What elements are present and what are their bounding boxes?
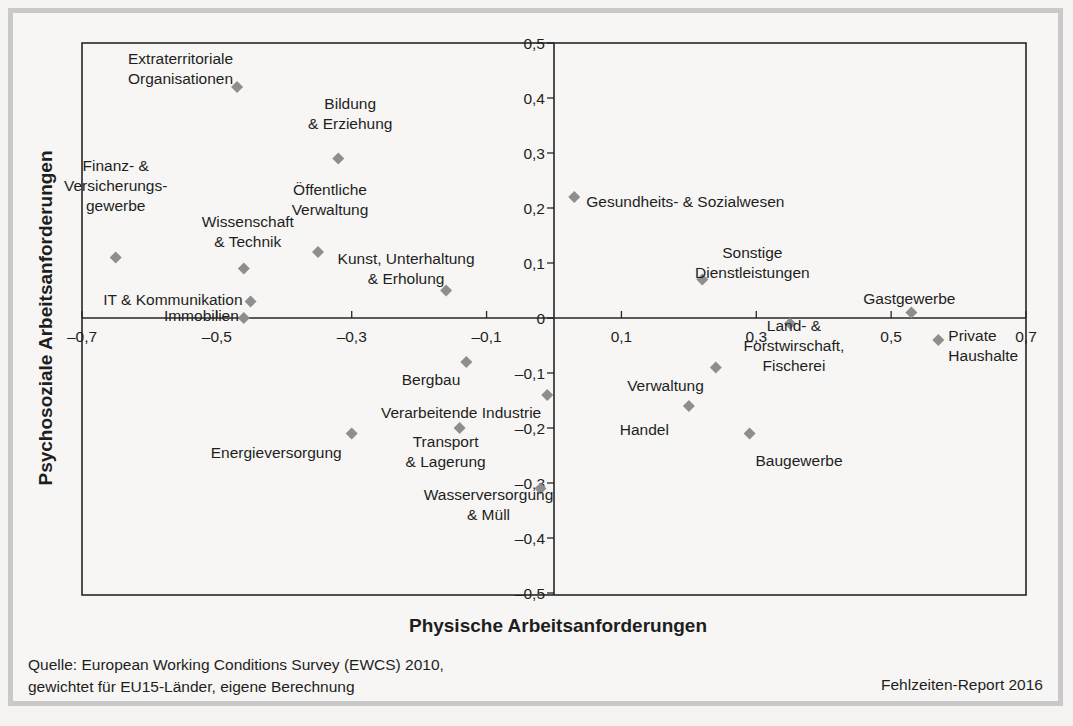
x-tick-label: –0,3 (337, 328, 367, 345)
source-line-2: gewichtet für EU15-Länder, eigene Berech… (28, 676, 444, 698)
data-point (110, 252, 122, 264)
data-point-label: Energieversorgung (211, 444, 342, 461)
data-point-label: PrivateHaushalte (948, 327, 1018, 364)
data-point-label: SonstigeDienstleistungen (695, 244, 810, 281)
data-point (460, 356, 472, 368)
data-point-label: ExtraterritorialeOrganisationen (128, 50, 233, 87)
data-point-label: Bildung& Erziehung (308, 95, 392, 132)
data-point-label-line: & Technik (214, 233, 281, 250)
data-point-label: Immobilien (164, 307, 239, 324)
data-point-label: Handel (620, 421, 669, 438)
data-point-label-line: Gastgewerbe (863, 290, 955, 307)
x-tick-label: 0,7 (1015, 328, 1037, 345)
data-point-label: Gastgewerbe (863, 290, 955, 307)
y-tick-label: 0 (536, 310, 545, 327)
data-point-label: Baugewerbe (756, 452, 843, 469)
scatter-chart: –0,7–0,5–0,3–0,10,10,30,50,70,50,40,30,2… (0, 0, 1073, 726)
y-tick-label: –0,4 (515, 530, 546, 547)
data-point-label-line: & Müll (467, 506, 510, 523)
data-point-label-line: Forstwirschaft, (744, 337, 845, 354)
data-point-label-line: Handel (620, 421, 669, 438)
data-point-label-line: gewerbe (86, 197, 145, 214)
data-point (238, 312, 250, 324)
x-tick-label: –0,5 (202, 328, 232, 345)
data-point-label: Finanz- &Versicherungs-gewerbe (64, 157, 167, 214)
y-axis-title: Psychosoziale Arbeitsanforderungen (35, 150, 56, 485)
data-point (568, 191, 580, 203)
data-point-label-line: Kunst, Unterhaltung (338, 250, 475, 267)
y-tick-label: –0,5 (515, 585, 545, 602)
data-point-label-line: Energieversorgung (211, 444, 342, 461)
y-tick-label: 0,5 (523, 35, 545, 52)
source-line-1: Quelle: European Working Conditions Surv… (28, 654, 444, 676)
data-point-label-line: Land- & (767, 317, 822, 334)
data-point-label: IT & Kommunikation (103, 291, 242, 308)
data-point-label: ÖffentlicheVerwaltung (292, 181, 369, 218)
data-point-label: Transport& Lagerung (406, 433, 486, 470)
data-point (744, 428, 756, 440)
data-point-label-line: & Lagerung (406, 453, 486, 470)
data-point (932, 334, 944, 346)
data-point-label-line: IT & Kommunikation (103, 291, 242, 308)
data-point (346, 428, 358, 440)
data-point-label-line: Baugewerbe (756, 452, 843, 469)
data-point (905, 307, 917, 319)
y-tick-label: 0,4 (523, 90, 545, 107)
data-point-label-line: Bildung (324, 95, 376, 112)
report-credit: Fehlzeiten-Report 2016 (881, 676, 1043, 694)
data-point-label-line: Fischerei (763, 357, 826, 374)
x-tick-label: –0,7 (67, 328, 97, 345)
data-point-label-line: Organisationen (128, 70, 233, 87)
data-point-label: Wasserversorgung& Müll (424, 486, 554, 523)
data-point-label-line: & Erholung (368, 270, 445, 287)
data-point (683, 400, 695, 412)
data-point-label-line: Sonstige (722, 244, 782, 261)
data-point (238, 263, 250, 275)
data-point-label-line: Immobilien (164, 307, 239, 324)
data-point-label-line: Verwaltung (627, 377, 704, 394)
data-point-label: Gesundheits- & Sozialwesen (586, 193, 784, 210)
x-tick-label: 0,5 (880, 328, 902, 345)
source-note: Quelle: European Working Conditions Surv… (28, 654, 444, 698)
x-tick-label: 0,1 (611, 328, 633, 345)
data-point-label-line: Bergbau (402, 371, 461, 388)
data-point-label-line: & Erziehung (308, 115, 392, 132)
data-point-label: Bergbau (402, 371, 461, 388)
data-point-label-line: Private (948, 327, 996, 344)
y-tick-label: 0,2 (523, 200, 545, 217)
data-point (245, 296, 257, 308)
data-point-label-line: Verwaltung (292, 201, 369, 218)
data-point-label-line: Verarbeitende Industrie (381, 404, 541, 421)
data-point (541, 389, 553, 401)
y-tick-label: 0,3 (523, 145, 545, 162)
x-tick-label: –0,1 (471, 328, 501, 345)
y-tick-label: 0,1 (523, 255, 545, 272)
data-point-label-line: Wasserversorgung (424, 486, 554, 503)
y-tick-label: –0,2 (515, 420, 545, 437)
data-point-label: Wissenschaft& Technik (202, 213, 295, 250)
data-point (312, 246, 324, 258)
data-point-label-line: Finanz- & (83, 157, 150, 174)
data-point-label-line: Extraterritoriale (128, 50, 233, 67)
data-point-label-line: Öffentliche (293, 181, 367, 198)
data-point-label-line: Versicherungs- (64, 177, 167, 194)
data-point-label-line: Wissenschaft (202, 213, 295, 230)
data-point-label-line: Haushalte (948, 347, 1018, 364)
data-point (332, 153, 344, 165)
x-axis-title: Physische Arbeitsanforderungen (409, 615, 707, 636)
data-point-label: Verwaltung (627, 377, 704, 394)
data-point-label-line: Dienstleistungen (695, 264, 810, 281)
data-point-label: Kunst, Unterhaltung& Erholung (338, 250, 475, 287)
data-point-label: Verarbeitende Industrie (381, 404, 541, 421)
data-point-label-line: Gesundheits- & Sozialwesen (586, 193, 784, 210)
data-point-label: Land- &Forstwirschaft,Fischerei (744, 317, 845, 374)
y-tick-label: –0,1 (515, 365, 545, 382)
data-point-label-line: Transport (413, 433, 479, 450)
data-point (710, 362, 722, 374)
